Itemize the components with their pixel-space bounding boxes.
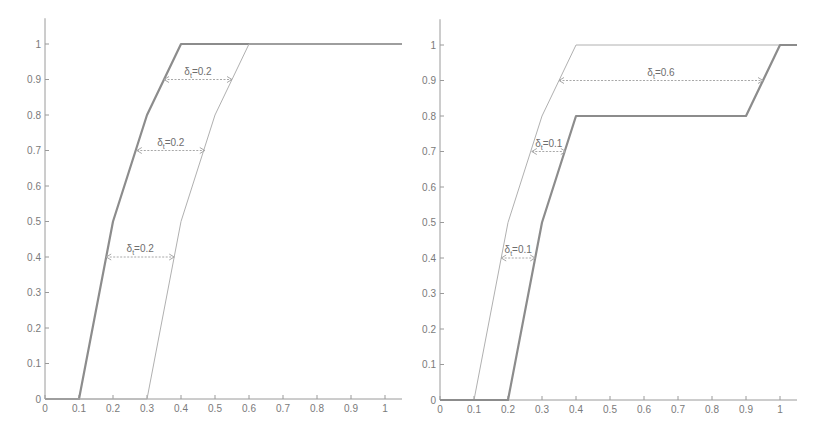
y-tick-label: 0.5 <box>27 216 41 227</box>
x-tick-label: 0 <box>437 404 443 415</box>
delta-label: δt=0.1 <box>535 138 563 151</box>
y-tick-label: 0.3 <box>422 288 436 299</box>
y-tick-label: 0.4 <box>27 252 41 263</box>
delta-label: δt=0.2 <box>184 66 212 79</box>
y-tick-label: 0.2 <box>27 323 41 334</box>
x-tick-label: 0.3 <box>140 403 154 414</box>
left-plot: 00.10.20.30.40.50.60.70.80.9100.10.20.30… <box>27 18 402 414</box>
x-tick-label: 0.7 <box>276 403 290 414</box>
x-tick-label: 0.8 <box>705 404 719 415</box>
x-tick-label: 0.5 <box>208 403 222 414</box>
x-tick-label: 0.1 <box>72 403 86 414</box>
x-tick-label: 1 <box>777 404 783 415</box>
y-tick-label: 0.5 <box>422 217 436 228</box>
series-thick <box>440 45 797 400</box>
delta-label: δt=0.6 <box>647 67 675 80</box>
y-tick-label: 0.7 <box>422 146 436 157</box>
right-plot: 00.10.20.30.40.50.60.70.80.9100.10.20.30… <box>422 19 797 415</box>
x-tick-label: 0.2 <box>501 404 515 415</box>
delta-label: δt=0.2 <box>157 137 185 150</box>
y-tick-label: 0 <box>35 394 41 405</box>
y-tick-label: 0.2 <box>422 324 436 335</box>
x-tick-label: 0.4 <box>569 404 583 415</box>
y-tick-label: 0.9 <box>27 74 41 85</box>
y-tick-label: 0.9 <box>422 75 436 86</box>
x-tick-label: 0.3 <box>535 404 549 415</box>
charts-canvas: 00.10.20.30.40.50.60.70.80.9100.10.20.30… <box>0 0 824 438</box>
y-tick-label: 1 <box>430 40 436 51</box>
y-tick-label: 1 <box>35 39 41 50</box>
x-tick-label: 0.9 <box>739 404 753 415</box>
y-tick-label: 0.8 <box>422 111 436 122</box>
x-tick-label: 1 <box>382 403 388 414</box>
x-tick-label: 0.8 <box>310 403 324 414</box>
y-tick-label: 0.1 <box>422 359 436 370</box>
x-tick-label: 0.6 <box>637 404 651 415</box>
y-tick-label: 0.4 <box>422 253 436 264</box>
x-tick-label: 0.1 <box>467 404 481 415</box>
y-tick-label: 0.7 <box>27 145 41 156</box>
y-tick-label: 0.3 <box>27 287 41 298</box>
x-tick-label: 0.4 <box>174 403 188 414</box>
y-tick-label: 0.6 <box>422 182 436 193</box>
y-tick-label: 0 <box>430 395 436 406</box>
y-tick-label: 0.1 <box>27 358 41 369</box>
x-tick-label: 0.6 <box>242 403 256 414</box>
delta-label: δt=0.1 <box>505 244 533 257</box>
y-tick-label: 0.8 <box>27 110 41 121</box>
y-tick-label: 0.6 <box>27 181 41 192</box>
x-tick-label: 0 <box>42 403 48 414</box>
series-thin <box>440 45 780 400</box>
delta-label: δt=0.2 <box>127 243 155 256</box>
x-tick-label: 0.5 <box>603 404 617 415</box>
x-tick-label: 0.7 <box>671 404 685 415</box>
x-tick-label: 0.9 <box>344 403 358 414</box>
series-thin <box>45 44 402 399</box>
x-tick-label: 0.2 <box>106 403 120 414</box>
